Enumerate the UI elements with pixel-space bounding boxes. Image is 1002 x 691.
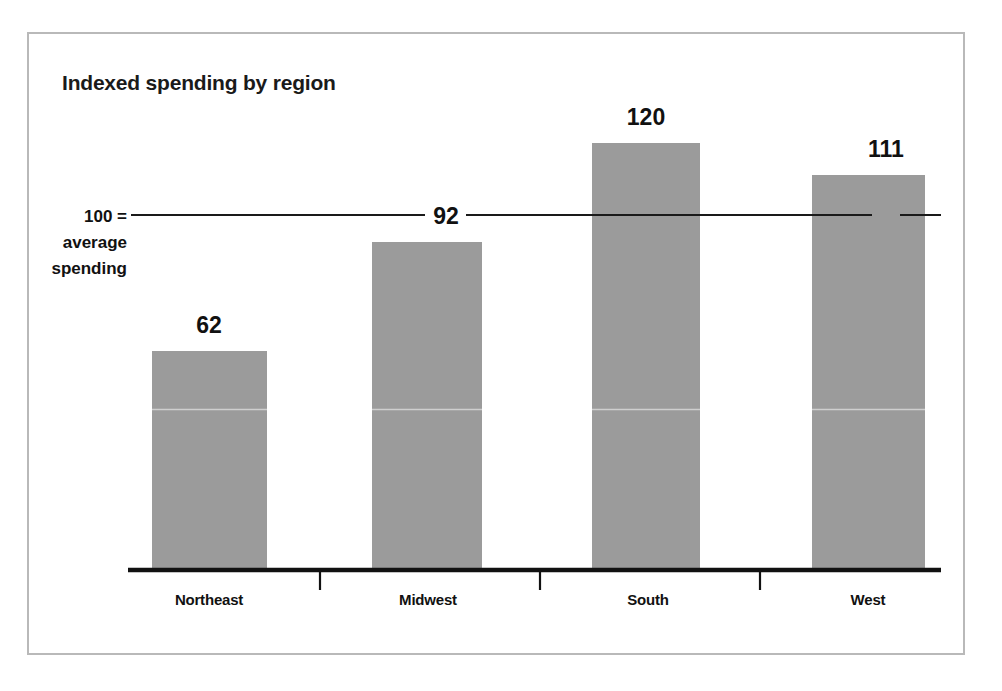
value-label-northeast: 62 — [196, 312, 222, 338]
category-label-midwest: Midwest — [399, 591, 457, 608]
reference-line-annotation: 100 = average spending — [51, 207, 127, 278]
category-label-west: West — [851, 591, 886, 608]
reference-label-line-2: average — [63, 233, 127, 252]
value-label-south: 120 — [627, 104, 665, 130]
value-labels-group: 62 92 120 111 — [196, 104, 904, 338]
bar-midwest — [372, 242, 482, 570]
bars-group — [152, 143, 925, 570]
reference-label-line-1: 100 = — [84, 207, 127, 226]
chart-title: Indexed spending by region — [62, 71, 336, 94]
bar-west — [812, 175, 925, 570]
category-label-south: South — [627, 591, 669, 608]
value-label-west: 111 — [868, 136, 904, 162]
reference-label-line-3: spending — [51, 259, 127, 278]
category-label-northeast: Northeast — [175, 591, 243, 608]
axis-ticks-group — [320, 570, 760, 590]
category-labels-group: Northeast Midwest South West — [175, 591, 886, 608]
bar-northeast — [152, 351, 267, 570]
value-label-midwest: 92 — [433, 203, 459, 229]
chart-figure: Indexed spending by region 100 = average… — [0, 0, 1002, 691]
bar-chart: Indexed spending by region 100 = average… — [0, 0, 1002, 691]
bar-south — [592, 143, 700, 570]
